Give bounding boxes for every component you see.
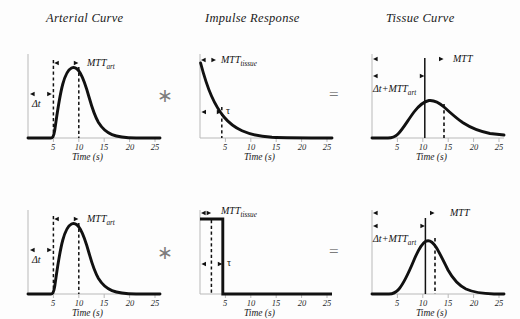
arrowhead-right-mtt bbox=[439, 57, 444, 62]
x-tick-label-10: 10 bbox=[69, 298, 89, 308]
plot-impulse-bottom bbox=[186, 202, 336, 312]
x-tick-label-5: 5 bbox=[43, 298, 63, 308]
label-dt-plus-mtt-art: Δt+MTTart bbox=[373, 83, 416, 97]
x-tick-label-25: 25 bbox=[145, 142, 165, 152]
plot-impulse-top bbox=[186, 46, 336, 156]
x-tick-label-20: 20 bbox=[120, 298, 140, 308]
x-tick-label-15: 15 bbox=[94, 298, 114, 308]
label-mtt-art: MTTart bbox=[87, 57, 115, 71]
panel-title-impulse: Impulse Response bbox=[205, 11, 300, 26]
x-tick-label-15: 15 bbox=[266, 298, 286, 308]
label-mtt-tissue-base: MTT bbox=[221, 205, 240, 216]
label-mtt-tissue-base: MTT bbox=[221, 54, 240, 65]
x-axis-label: Time (s) bbox=[72, 308, 103, 318]
label-dt-plus-mtt-art-sub: art bbox=[408, 239, 416, 247]
label-tau: τ bbox=[227, 257, 231, 268]
arrowhead-right-dt-plus-mtt-art bbox=[420, 224, 425, 229]
arrowhead-left-mtt bbox=[373, 57, 378, 62]
x-tick-label-15: 15 bbox=[438, 142, 458, 152]
arrowhead-right-mtt-tissue bbox=[211, 58, 216, 63]
panel-arterial-bottom: Δt MTTart 5 10 15 20 25 Time (s) bbox=[14, 202, 164, 312]
panel-title-arterial: Arterial Curve bbox=[46, 11, 123, 26]
arrowhead-left-tau bbox=[201, 262, 206, 267]
x-tick-label-5: 5 bbox=[215, 298, 235, 308]
panel-arterial-top: Δt MTTart 5 10 15 20 25 Time (s) bbox=[14, 46, 164, 156]
panel-impulse-top: MTTtissue τ 5 10 15 20 25 Time (s) bbox=[186, 46, 336, 156]
x-tick-label-5: 5 bbox=[215, 142, 235, 152]
arrowhead-left-mtt bbox=[373, 211, 378, 216]
x-tick-label-10: 10 bbox=[413, 298, 433, 308]
label-dt-plus-mtt-art-base: Δt+MTT bbox=[373, 233, 408, 244]
arrowhead-left-tau bbox=[201, 110, 206, 115]
label-mtt-tissue-sub: tissue bbox=[240, 211, 256, 219]
label-mtt-tissue: MTTtissue bbox=[221, 54, 257, 68]
x-axis-label: Time (s) bbox=[416, 152, 447, 162]
x-tick-label-5: 5 bbox=[387, 142, 407, 152]
x-tick-label-10: 10 bbox=[69, 142, 89, 152]
label-mtt-art-sub: art bbox=[106, 63, 114, 71]
x-axis-label: Time (s) bbox=[72, 152, 103, 162]
x-axis-label: Time (s) bbox=[244, 308, 275, 318]
x-axis-label: Time (s) bbox=[244, 152, 275, 162]
x-tick-label-25: 25 bbox=[489, 142, 509, 152]
label-mtt-art-base: MTT bbox=[87, 57, 106, 68]
label-delta-t: Δt bbox=[32, 254, 41, 265]
arrowhead-right-delta-t bbox=[47, 92, 52, 97]
arrowhead-left-dt-plus-mtt-art bbox=[373, 224, 378, 229]
x-tick-label-10: 10 bbox=[241, 298, 261, 308]
label-mtt: MTT bbox=[450, 207, 469, 218]
label-delta-t: Δt bbox=[32, 98, 41, 109]
label-dt-plus-mtt-art-base: Δt+MTT bbox=[373, 83, 408, 94]
x-tick-label-20: 20 bbox=[292, 298, 312, 308]
label-mtt: MTT bbox=[453, 53, 472, 64]
x-tick-label-15: 15 bbox=[94, 142, 114, 152]
panel-tissue-top: MTT Δt+MTTart 5 10 15 20 25 Time (s) bbox=[358, 46, 508, 156]
panel-impulse-bottom: MTTtissue τ 5 10 15 20 25 Time (s) bbox=[186, 202, 336, 312]
x-tick-label-15: 15 bbox=[266, 142, 286, 152]
x-tick-label-20: 20 bbox=[464, 298, 484, 308]
arrowhead-left-delta-t bbox=[30, 92, 35, 97]
x-tick-label-15: 15 bbox=[438, 298, 458, 308]
arrowhead-right-delta-t bbox=[47, 248, 52, 253]
x-tick-label-5: 5 bbox=[43, 142, 63, 152]
label-tau: τ bbox=[226, 105, 230, 116]
curve-tissue bbox=[372, 241, 504, 294]
label-dt-plus-mtt-art: Δt+MTTart bbox=[373, 233, 416, 247]
curve-impulse-exponential bbox=[201, 63, 332, 138]
label-dt-plus-mtt-art-sub: art bbox=[408, 89, 416, 97]
arrowhead-left-dt-plus-mtt-art bbox=[373, 74, 378, 79]
label-mtt-art-sub: art bbox=[106, 219, 114, 227]
label-mtt-art-base: MTT bbox=[87, 213, 106, 224]
curve-tissue bbox=[372, 100, 504, 138]
x-tick-label-20: 20 bbox=[464, 142, 484, 152]
arrowhead-left-delta-t bbox=[30, 248, 35, 253]
curve-impulse-box bbox=[200, 219, 332, 294]
arrowhead-right-dt-plus-mtt-art bbox=[420, 74, 425, 79]
curve-arterial bbox=[28, 68, 160, 138]
arrowhead-left-mtt-tissue bbox=[201, 58, 206, 63]
x-tick-label-10: 10 bbox=[241, 142, 261, 152]
x-tick-label-20: 20 bbox=[292, 142, 312, 152]
x-tick-label-25: 25 bbox=[317, 298, 337, 308]
convolution-figure: Arterial Curve Impulse Response Tissue C… bbox=[0, 0, 520, 319]
arrowhead-right-mtt-tissue bbox=[207, 211, 212, 216]
x-tick-label-25: 25 bbox=[489, 298, 509, 308]
curve-arterial bbox=[28, 224, 160, 294]
arrowhead-left-mtt-art bbox=[54, 217, 59, 222]
arrowhead-right-mtt-art bbox=[74, 61, 79, 66]
arrowhead-left-mtt-art bbox=[54, 61, 59, 66]
x-tick-label-25: 25 bbox=[145, 298, 165, 308]
x-tick-label-5: 5 bbox=[387, 298, 407, 308]
x-tick-label-10: 10 bbox=[413, 142, 433, 152]
label-mtt-tissue: MTTtissue bbox=[221, 205, 257, 219]
panel-title-tissue: Tissue Curve bbox=[386, 11, 455, 26]
plot-tissue-bottom bbox=[358, 202, 508, 312]
label-mtt-art: MTTart bbox=[87, 213, 115, 227]
arrowhead-right-mtt-art bbox=[74, 217, 79, 222]
label-mtt-tissue-sub: tissue bbox=[240, 60, 256, 68]
x-tick-label-20: 20 bbox=[120, 142, 140, 152]
x-tick-label-25: 25 bbox=[317, 142, 337, 152]
arrowhead-right-mtt bbox=[430, 211, 435, 216]
plot-tissue-top bbox=[358, 46, 508, 156]
x-axis-label: Time (s) bbox=[416, 308, 447, 318]
